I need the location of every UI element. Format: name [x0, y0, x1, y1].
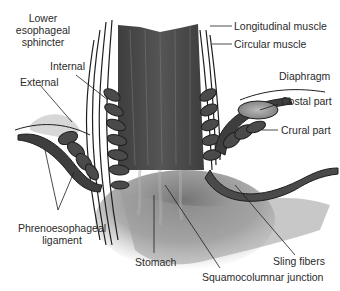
label-phreno-line1: Phrenoesophageal — [12, 222, 112, 234]
label-squamocolumnar-junction: Squamocolumnar junction — [202, 271, 323, 283]
label-sling-fibers: Sling fibers — [273, 255, 325, 267]
label-les-line3: sphincter — [8, 36, 78, 48]
label-diaphragm: Diaphragm — [279, 70, 330, 82]
label-costal-part: Costal part — [281, 95, 332, 107]
label-les-line2: esophageal — [8, 24, 78, 36]
label-longitudinal-muscle: Longitudinal muscle — [234, 20, 327, 32]
label-internal: Internal — [50, 60, 85, 72]
label-crural-part: Crural part — [281, 124, 331, 136]
label-stomach: Stomach — [135, 256, 176, 268]
label-external: External — [20, 76, 59, 88]
label-circular-muscle: Circular muscle — [234, 38, 306, 50]
label-phreno-line2: ligament — [12, 234, 112, 246]
costal-part-shape — [238, 101, 278, 119]
label-lower-esophageal-sphincter: Lower esophageal sphincter — [8, 12, 78, 48]
diagram-canvas: Lower esophageal sphincter Internal Exte… — [0, 0, 340, 291]
label-les-line1: Lower — [8, 12, 78, 24]
label-phrenoesophageal-ligament: Phrenoesophageal ligament — [12, 222, 112, 246]
